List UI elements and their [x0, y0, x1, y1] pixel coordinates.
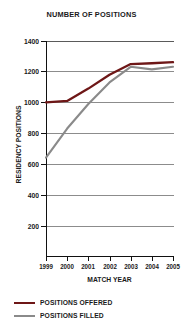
x-tick-label-2002: 2002: [99, 263, 120, 270]
x-tick-1999: [46, 256, 47, 261]
x-tick-2001: [88, 256, 89, 261]
y-axis-title: RESIDENCY POSITIONS: [14, 77, 23, 212]
legend-label-positions-filled: POSITIONS FILLED: [40, 311, 104, 320]
series-line-positions-filled: [46, 67, 173, 158]
x-tick-label-1999: 1999: [35, 263, 56, 270]
x-tick-label-2003: 2003: [120, 263, 141, 270]
x-tick-2004: [152, 256, 153, 261]
x-tick-2003: [131, 256, 132, 261]
legend-swatch-positions-offered: [14, 302, 35, 304]
legend-item-positions-offered: POSITIONS OFFERED: [14, 296, 183, 309]
x-tick-label-2005: 2005: [162, 263, 183, 270]
x-tick-label-2004: 2004: [141, 263, 162, 270]
x-axis-title: MATCH YEAR: [52, 275, 166, 284]
chart-legend: POSITIONS OFFERED POSITIONS FILLED: [14, 296, 183, 322]
x-tick-2000: [67, 256, 68, 261]
number-of-positions-chart: NUMBER OF POSITIONS 1400 1200 1000 800 6…: [0, 0, 183, 327]
x-tick-label-2000: 2000: [57, 263, 78, 270]
legend-item-positions-filled: POSITIONS FILLED: [14, 309, 183, 322]
x-tick-2005: [173, 256, 174, 261]
x-tick-2002: [110, 256, 111, 261]
legend-label-positions-offered: POSITIONS OFFERED: [40, 298, 112, 307]
x-tick-label-2001: 2001: [78, 263, 99, 270]
legend-swatch-positions-filled: [14, 315, 35, 317]
